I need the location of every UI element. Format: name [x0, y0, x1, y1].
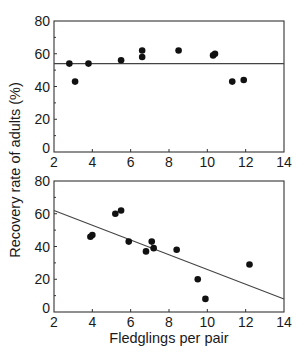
y-tick-label: 80: [34, 13, 50, 29]
data-point: [240, 77, 247, 84]
data-point: [173, 246, 180, 253]
x-tick-label: 4: [88, 154, 96, 170]
figure: 02040608024681012140204060802468101214 R…: [0, 0, 304, 360]
x-tick-label: 4: [88, 314, 96, 330]
data-point: [202, 296, 209, 303]
x-tick-label: 8: [165, 154, 173, 170]
y-tick-label: 20: [34, 271, 50, 287]
data-point: [139, 54, 146, 61]
data-point: [85, 60, 92, 67]
plot-frame: [54, 181, 284, 312]
plot-frame: [54, 21, 284, 152]
data-point: [125, 238, 132, 245]
y-axis-label-container: Recovery rate of adults (%): [3, 40, 27, 300]
y-tick-label: 80: [34, 173, 50, 189]
y-tick-label: 40: [34, 239, 50, 255]
data-point: [212, 50, 219, 57]
y-tick-label: 40: [34, 79, 50, 95]
x-tick-label: 6: [127, 154, 135, 170]
y-tick-label: 60: [34, 46, 50, 62]
data-point: [89, 232, 96, 239]
data-point: [72, 78, 79, 85]
data-point: [143, 248, 150, 255]
data-point: [66, 60, 73, 67]
x-tick-label: 12: [238, 314, 254, 330]
y-tick-label: 0: [42, 140, 50, 156]
data-point: [139, 47, 146, 54]
data-point: [148, 238, 155, 245]
x-tick-label: 8: [165, 314, 173, 330]
data-point: [194, 276, 201, 283]
fit-line: [54, 210, 284, 298]
data-point: [118, 207, 125, 214]
data-point: [150, 245, 157, 252]
data-point: [118, 57, 125, 64]
data-point: [112, 210, 119, 217]
y-axis-label: Recovery rate of adults (%): [7, 82, 23, 258]
data-point: [175, 47, 182, 54]
x-tick-label: 14: [276, 154, 292, 170]
x-tick-label: 10: [200, 154, 216, 170]
data-point: [246, 261, 253, 268]
x-tick-label: 2: [50, 154, 58, 170]
x-tick-label: 2: [50, 314, 58, 330]
plots-canvas: 02040608024681012140204060802468101214: [0, 0, 304, 360]
data-point: [229, 78, 236, 85]
x-tick-label: 10: [200, 314, 216, 330]
x-axis-label: Fledglings per pair: [54, 330, 284, 346]
x-tick-label: 6: [127, 314, 135, 330]
y-tick-label: 20: [34, 111, 50, 127]
panel-bottom: 0204060802468101214: [34, 173, 292, 330]
x-tick-label: 12: [238, 154, 254, 170]
x-tick-label: 14: [276, 314, 292, 330]
panel-top: 0204060802468101214: [34, 13, 292, 170]
y-tick-label: 60: [34, 206, 50, 222]
y-tick-label: 0: [42, 300, 50, 316]
